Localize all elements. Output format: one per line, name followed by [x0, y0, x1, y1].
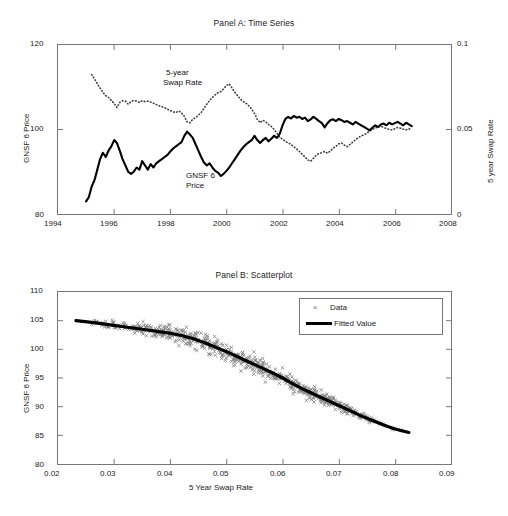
- panel-b-xtick-0.02: 0.02: [44, 469, 60, 478]
- panel-b-xlabel: 5 Year Swap Rate: [189, 483, 253, 492]
- scatter-points: [90, 319, 403, 433]
- panel-a-ytick-left-120: 120: [30, 39, 43, 48]
- panel-b-ytick-95: 95: [35, 373, 44, 382]
- swap-rate-series: [92, 75, 412, 162]
- panel-a-ytick-left-80: 80: [35, 210, 44, 219]
- panel-b-scatterplot: Panel B: Scatterplot 110 105 100 95 90 8…: [0, 258, 508, 516]
- annotation-swap-rate-line2: Swap Rate: [163, 78, 202, 88]
- panel-b-ticks: [58, 321, 451, 464]
- fitted-value-series: [76, 321, 409, 433]
- panel-b-xtick-0.03: 0.03: [100, 469, 116, 478]
- panel-b-ylabel: GNSF 6 Price: [22, 364, 31, 413]
- panel-a-ytick-left-100: 100: [30, 124, 43, 133]
- gnsf6-price-series: [86, 116, 412, 201]
- panel-a-ytick-right-0.05: 0.05: [457, 124, 473, 133]
- panel-a-title: Panel A: Time Series: [0, 18, 508, 28]
- panel-b-ytick-80: 80: [35, 460, 44, 469]
- panel-b-xtick-0.05: 0.05: [213, 469, 229, 478]
- panel-a-xtick-2000: 2000: [213, 219, 231, 228]
- panel-a-xtick-2002: 2002: [270, 219, 288, 228]
- panel-b-ytick-90: 90: [35, 402, 44, 411]
- panel-a-xtick-1994: 1994: [44, 219, 62, 228]
- panel-b-xtick-0.06: 0.06: [270, 469, 286, 478]
- annotation-swap-rate-line1: 5-year: [166, 68, 189, 78]
- panel-b-ytick-85: 85: [35, 431, 44, 440]
- figure-root: Panel A: Time Series 120 100 80 0.1 0.05…: [0, 0, 508, 516]
- panel-a-xtick-1998: 1998: [157, 219, 175, 228]
- panel-b-plot-area: × Data Fitted Value: [57, 291, 452, 465]
- panel-b-ytick-105: 105: [30, 315, 43, 324]
- annotation-gnsf6-line2: Price: [186, 181, 204, 191]
- annotation-gnsf6-line1: GNSF 6: [186, 171, 215, 181]
- panel-a-ytick-right-0.1: 0.1: [457, 39, 468, 48]
- legend-label-data: Data: [330, 303, 347, 312]
- panel-b-ytick-110: 110: [30, 286, 43, 295]
- panel-b-title: Panel B: Scatterplot: [0, 270, 508, 280]
- legend-label-fitted: Fitted Value: [334, 319, 376, 328]
- panel-a-time-series: Panel A: Time Series 120 100 80 0.1 0.05…: [0, 0, 508, 258]
- panel-b-xtick-0.07: 0.07: [326, 469, 342, 478]
- panel-a-ylabel-right: 5 year Swap Rate: [486, 119, 495, 183]
- panel-a-xtick-1996: 1996: [100, 219, 118, 228]
- panel-b-legend: × Data Fitted Value: [299, 298, 443, 335]
- panel-a-canvas: [58, 45, 451, 214]
- legend-entry-data: × Data: [306, 303, 347, 312]
- legend-x-marker-icon: ×: [306, 303, 324, 312]
- panel-b-xtick-0.04: 0.04: [157, 469, 173, 478]
- panel-a-plot-area: 5-year Swap Rate GNSF 6 Price: [57, 44, 452, 215]
- panel-a-xtick-2006: 2006: [383, 219, 401, 228]
- panel-b-ytick-100: 100: [30, 344, 43, 353]
- panel-a-xtick-2004: 2004: [326, 219, 344, 228]
- panel-b-xtick-0.08: 0.08: [383, 469, 399, 478]
- panel-b-xtick-0.09: 0.09: [439, 469, 455, 478]
- panel-a-ylabel-left: GNSF 6 Price: [22, 114, 31, 163]
- legend-entry-fitted: Fitted Value: [306, 319, 376, 328]
- legend-line-marker-icon: [306, 322, 332, 325]
- panel-a-ytick-right-0: 0: [457, 210, 461, 219]
- panel-a-xtick-2008: 2008: [439, 219, 457, 228]
